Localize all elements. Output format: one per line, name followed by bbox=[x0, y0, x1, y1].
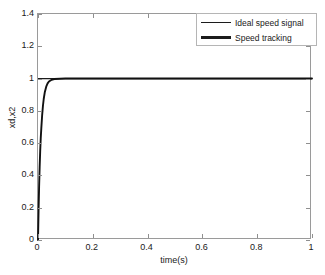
y-tick-label-text: 0.2 bbox=[0, 202, 34, 212]
x-tick-label: 1 bbox=[308, 242, 313, 252]
chart-curves bbox=[38, 14, 312, 240]
legend-item-speed-tracking: Speed tracking bbox=[197, 30, 316, 45]
legend-line-sample-icon bbox=[201, 36, 231, 39]
x-axis-label: time(s) bbox=[37, 255, 311, 266]
y-tick-label: 0.4 bbox=[0, 169, 34, 179]
y-tick bbox=[38, 143, 42, 144]
x-tick-label: 0 bbox=[34, 242, 39, 252]
x-tick-label: 0.4 bbox=[140, 242, 153, 252]
y-tick-right bbox=[306, 208, 310, 209]
x-tick bbox=[93, 234, 94, 238]
y-tick-right bbox=[306, 143, 310, 144]
y-tick bbox=[38, 111, 42, 112]
y-tick bbox=[38, 79, 42, 80]
y-tick-label: 1.4 bbox=[0, 8, 34, 18]
y-tick-right bbox=[306, 79, 310, 80]
y-tick-label-text: 1 bbox=[0, 73, 34, 83]
y-tick-label: 1.2 bbox=[0, 40, 34, 50]
y-tick-label-text: 0 bbox=[0, 234, 34, 244]
x-tick-label: 0.6 bbox=[195, 242, 208, 252]
y-tick-label: 0 bbox=[0, 234, 34, 244]
x-tick-top bbox=[93, 14, 94, 18]
y-tick bbox=[38, 175, 42, 176]
y-tick-label-text: 1.2 bbox=[0, 40, 34, 50]
x-tick-label: 0.2 bbox=[86, 242, 99, 252]
x-tick bbox=[38, 234, 39, 238]
y-tick bbox=[38, 14, 42, 15]
x-tick bbox=[202, 234, 203, 238]
y-tick bbox=[38, 208, 42, 209]
chart-legend: Ideal speed signal Speed tracking bbox=[196, 13, 317, 46]
plot-area bbox=[37, 13, 311, 239]
x-tick bbox=[148, 234, 149, 238]
x-tick bbox=[257, 234, 258, 238]
x-tick bbox=[312, 234, 313, 238]
legend-line-sample-icon bbox=[201, 22, 231, 24]
x-tick-label: 0.8 bbox=[250, 242, 263, 252]
x-tick-top bbox=[148, 14, 149, 18]
legend-item-label: Ideal speed signal bbox=[235, 18, 304, 28]
y-tick bbox=[38, 46, 42, 47]
y-tick-label: 1 bbox=[0, 73, 34, 83]
y-tick-right bbox=[306, 46, 310, 47]
chart-screenshot: 00.20.40.60.81 00.20.40.60.811.21.4 time… bbox=[0, 0, 325, 275]
series-line-speed-tracking bbox=[38, 79, 312, 240]
y-tick-label-text: 0.4 bbox=[0, 169, 34, 179]
y-tick-label-text: 1.4 bbox=[0, 8, 34, 18]
y-axis-label: xd,x2 bbox=[7, 88, 18, 148]
y-tick bbox=[38, 240, 42, 241]
y-tick-right bbox=[306, 111, 310, 112]
y-tick-label: 0.2 bbox=[0, 202, 34, 212]
y-tick-right bbox=[306, 175, 310, 176]
legend-item-label: Speed tracking bbox=[235, 33, 292, 43]
legend-item-ideal-speed-signal: Ideal speed signal bbox=[197, 15, 316, 30]
y-tick-right bbox=[306, 240, 310, 241]
